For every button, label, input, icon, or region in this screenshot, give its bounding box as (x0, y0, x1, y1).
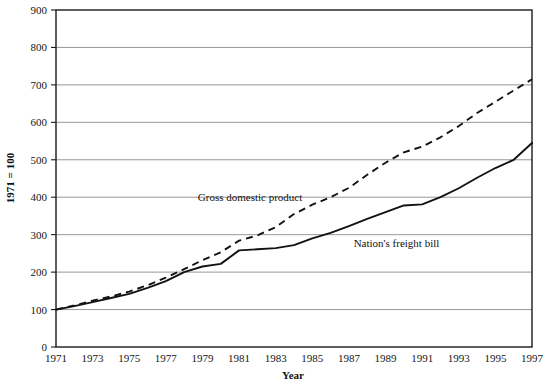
x-axis-tick-label: 1997 (521, 352, 544, 364)
x-axis-tick-label: 1987 (338, 352, 361, 364)
series-annotations: Gross domestic productNation's freight b… (198, 191, 440, 249)
x-axis-title: Year (282, 369, 304, 381)
x-axis-tick-label: 1983 (265, 352, 288, 364)
y-axis-tick-label: 300 (31, 229, 48, 241)
plot-frame (56, 10, 532, 347)
y-axis-tick-label: 900 (31, 4, 48, 16)
y-axis-tick-label: 400 (31, 191, 48, 203)
x-axis-tick-label: 1995 (484, 352, 507, 364)
y-axis-tick-label: 800 (31, 41, 48, 53)
x-axis-tick-label: 1985 (301, 352, 324, 364)
series-annotation-label: Gross domestic product (198, 191, 302, 203)
y-axis-tick-labels: 0100200300400500600700800900 (31, 4, 48, 353)
x-axis-tick-label: 1991 (411, 352, 433, 364)
x-axis-tick-label: 1981 (228, 352, 250, 364)
y-axis-title: 1971 = 100 (4, 152, 16, 203)
line-chart: 0100200300400500600700800900 19711973197… (0, 0, 550, 386)
x-axis-tick-label: 1989 (375, 352, 398, 364)
y-axis-tick-label: 100 (31, 304, 48, 316)
series-annotation-label: Nation's freight bill (354, 237, 440, 249)
chart-figure: 0100200300400500600700800900 19711973197… (0, 0, 550, 386)
x-axis-tick-labels: 1971197319751977197919811983198519871989… (45, 352, 544, 364)
gridlines (56, 47, 532, 309)
series-line-nations-freight-bill (56, 143, 532, 310)
x-axis-tick-label: 1975 (118, 352, 141, 364)
x-axis-tick-label: 1973 (82, 352, 105, 364)
y-axis-tickmarks (51, 10, 56, 347)
x-axis-tick-label: 1977 (155, 352, 178, 364)
x-axis-tick-label: 1993 (448, 352, 471, 364)
y-axis-tick-label: 200 (31, 266, 48, 278)
x-axis-tick-label: 1979 (191, 352, 214, 364)
y-axis-tick-label: 500 (31, 154, 48, 166)
y-axis-tick-label: 600 (31, 116, 48, 128)
y-axis-tick-label: 700 (31, 79, 48, 91)
x-axis-tick-label: 1971 (45, 352, 67, 364)
